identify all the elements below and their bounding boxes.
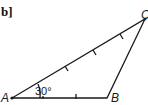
vertex-label-c: C [141,9,148,21]
tick-ac-3 [120,34,123,39]
triangle-diagram [0,0,148,105]
triangle-abc [12,19,145,98]
vertex-label-b: B [111,92,119,104]
vertex-label-a: A [1,92,9,104]
tick-ac-1 [65,66,68,71]
angle-label: 30° [35,86,52,97]
tick-ac-2 [93,50,96,55]
